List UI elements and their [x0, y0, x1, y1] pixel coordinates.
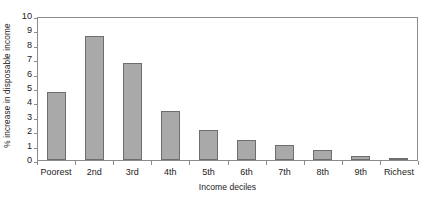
bar [85, 36, 104, 160]
y-axis-tick-label: 2 [27, 128, 32, 137]
bar [161, 111, 180, 160]
y-axis-tick-label: 8 [27, 41, 32, 50]
y-axis-title: % increase in disposable income [0, 0, 14, 170]
bar-slot [38, 18, 76, 160]
bar [237, 140, 256, 160]
y-axis-tick-label: 7 [27, 56, 32, 65]
y-axis-tickmark [34, 32, 38, 33]
bar-slot [379, 18, 417, 160]
y-axis-tick-labels: 012345678910 [14, 12, 34, 162]
y-axis-tickmark [34, 133, 38, 134]
x-axis-tickmark [189, 161, 190, 165]
y-axis-tick-label: 1 [27, 142, 32, 151]
x-axis-tickmark [266, 161, 267, 165]
x-axis-tick-label: 2nd [75, 166, 113, 180]
x-axis-tick-label: Richest [380, 166, 418, 180]
y-axis-tickmark [34, 104, 38, 105]
x-axis-tickmark [418, 161, 419, 165]
bar [123, 63, 142, 160]
plot-area [37, 17, 418, 161]
x-axis-tickmark [380, 161, 381, 165]
bar-slot [190, 18, 228, 160]
x-axis-tickmark [342, 161, 343, 165]
x-axis-tickmark [75, 161, 76, 165]
y-axis-tickmark [34, 61, 38, 62]
x-axis-tickmark [228, 161, 229, 165]
y-axis-tickmark [34, 148, 38, 149]
bar [389, 158, 408, 160]
x-axis-tickmark [113, 161, 114, 165]
bar-slot [303, 18, 341, 160]
x-axis-tick-labels: Poorest2nd3rd4th5th6th7th8th9thRichest [37, 166, 418, 180]
x-axis-tick-label: 3rd [113, 166, 151, 180]
x-axis-title: Income deciles [37, 182, 418, 192]
y-axis-tick-label: 0 [27, 156, 32, 165]
bar [313, 150, 332, 160]
x-axis-tick-label: 9th [342, 166, 380, 180]
y-axis-tick-label: 5 [27, 84, 32, 93]
y-axis-tick-label: 6 [27, 70, 32, 79]
x-axis-tick-label: 8th [304, 166, 342, 180]
y-axis-tickmark [34, 47, 38, 48]
bar [47, 92, 66, 160]
y-axis-tickmark [34, 18, 38, 19]
y-axis-tick-label: 10 [22, 12, 32, 21]
bar [351, 156, 370, 160]
y-axis-tickmark [34, 119, 38, 120]
bar-slot [114, 18, 152, 160]
bar-slot [152, 18, 190, 160]
y-axis-tick-label: 4 [27, 99, 32, 108]
bar [275, 145, 294, 160]
bar-slot [341, 18, 379, 160]
bar-slot [76, 18, 114, 160]
x-axis-tick-label: 6th [227, 166, 265, 180]
y-axis-tickmark [34, 90, 38, 91]
x-axis-tick-label: 5th [189, 166, 227, 180]
y-axis-tick-label: 3 [27, 113, 32, 122]
x-axis-tickmark [304, 161, 305, 165]
y-axis-title-text: % increase in disposable income [3, 23, 12, 147]
y-axis-tickmark [34, 76, 38, 77]
x-axis-tick-label: Poorest [37, 166, 75, 180]
bar-slot [228, 18, 266, 160]
x-axis-tickmark [151, 161, 152, 165]
x-axis-tick-label: 4th [151, 166, 189, 180]
bar [199, 130, 218, 160]
bar-chart-figure: % increase in disposable income 01234567… [0, 0, 425, 198]
bar-slot [265, 18, 303, 160]
x-axis-tick-label: 7th [266, 166, 304, 180]
y-axis-tick-label: 9 [27, 27, 32, 36]
x-axis-tickmark [37, 161, 38, 165]
bars-layer [38, 18, 417, 160]
